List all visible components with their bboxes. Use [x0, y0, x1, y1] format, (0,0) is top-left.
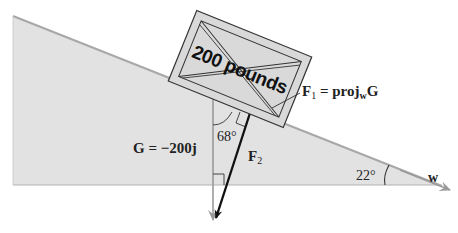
gravity-label: G = −200j [133, 140, 197, 156]
inclined-plane-diagram: 200 pounds F1 = projwG G = −200j 68° F2 … [0, 0, 458, 233]
f1-label: F1 = projwG [302, 83, 379, 101]
angle-68-label: 68° [217, 129, 237, 144]
w-label: w [428, 170, 439, 185]
angle-22-label: 22° [356, 168, 376, 183]
